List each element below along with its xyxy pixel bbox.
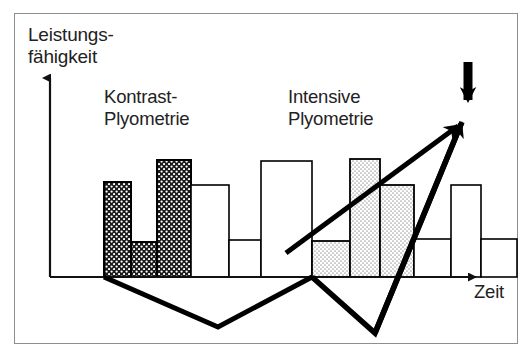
bar-i4 xyxy=(414,239,451,277)
group-label-intensive-plyometrie: Intensive Plyometrie xyxy=(288,86,373,130)
bar-k1 xyxy=(104,182,131,277)
bar-group-intensive-plyometrie xyxy=(312,159,517,277)
bar-i6 xyxy=(481,239,517,277)
x-axis-label: Zeit xyxy=(474,281,504,303)
bar-k5 xyxy=(229,240,261,277)
supercompensation-dip-1 xyxy=(104,277,312,327)
figure-container: Leistungs- fähigkeit Kontrast- Plyometri… xyxy=(0,0,532,358)
bar-i1 xyxy=(312,241,350,277)
bar-i5 xyxy=(451,185,481,277)
bar-k2 xyxy=(131,242,157,277)
bar-k3 xyxy=(157,160,191,277)
bar-group-kontrast-plyometrie xyxy=(104,160,312,277)
bar-i2 xyxy=(350,159,380,277)
y-axis-label: Leistungs- fähigkeit xyxy=(28,24,114,69)
bar-k4 xyxy=(191,185,229,277)
group-label-kontrast-plyometrie: Kontrast- Plyometrie xyxy=(104,86,189,130)
bar-k6 xyxy=(261,161,312,277)
bar-i3 xyxy=(380,185,414,277)
